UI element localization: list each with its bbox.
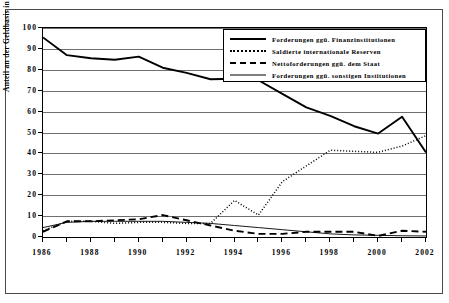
y-axis-tick-label: 70 (27, 85, 37, 94)
thick-solid-line-icon (228, 34, 268, 44)
x-axis-tick-mark (329, 238, 330, 242)
dotted-line-icon (228, 46, 268, 56)
x-axis-tick-label: 1988 (80, 248, 99, 257)
y-axis-tick-label: 60 (27, 106, 37, 115)
y-axis-tick-label: 30 (27, 169, 37, 178)
legend-item-label: Forderungen ggü. Finanzinstitutionen (272, 36, 395, 43)
series-line (43, 136, 426, 231)
x-axis-tick-label: 2002 (415, 248, 434, 257)
x-axis-tick-mark (114, 238, 115, 242)
x-axis-tick-mark (377, 238, 378, 242)
x-axis-tick-label: 1986 (32, 248, 51, 257)
x-axis-tick-mark (353, 238, 354, 242)
dashed-line-icon (228, 58, 268, 68)
x-axis-tick-mark (234, 238, 235, 242)
x-axis-tick-mark (42, 238, 43, 242)
x-axis-tick-mark (281, 238, 282, 242)
thin-solid-line-icon (228, 70, 268, 80)
legend-item: Nettoforderungen ggü. dem Staat (228, 57, 421, 69)
legend-item: Forderungen ggü. sonstigen Institutionen (228, 69, 421, 81)
x-axis-tick-mark (401, 238, 402, 242)
y-axis-tick-label: 100 (22, 23, 37, 32)
legend-item: Forderungen ggü. Finanzinstitutionen (228, 33, 421, 45)
x-axis-tick-mark (186, 238, 187, 242)
legend-item-label: Nettoforderungen ggü. dem Staat (272, 60, 380, 67)
x-axis-tick-mark (138, 238, 139, 242)
chart-legend: Forderungen ggü. FinanzinstitutionenSald… (223, 29, 426, 82)
x-axis-tick-label: 1990 (128, 248, 147, 257)
y-axis-tick-label: 80 (27, 64, 37, 73)
y-axis-tick-label: 50 (27, 127, 37, 136)
y-axis-tick-labels: 1009080706050403020100 (0, 0, 42, 245)
x-axis-tick-mark (305, 238, 306, 242)
x-axis-tick-label: 1996 (272, 248, 291, 257)
y-axis-tick-label: 40 (27, 148, 37, 157)
x-axis-tick-label: 1992 (176, 248, 195, 257)
legend-item: Saldierte internationale Reserven (228, 45, 421, 57)
x-axis-tick-mark (66, 238, 67, 242)
y-axis-tick-label: 20 (27, 190, 37, 199)
x-axis-tick-label: 1994 (224, 248, 243, 257)
chart-screenshot: Anteil an der Geldbasis in v.H. 10090807… (0, 0, 449, 303)
x-axis-tick-mark (257, 238, 258, 242)
y-axis-tick-label: 90 (27, 43, 37, 52)
x-axis-tick-mark (90, 238, 91, 242)
y-axis-tick-label: 10 (27, 211, 37, 220)
legend-item-label: Saldierte internationale Reserven (272, 48, 381, 55)
legend-item-label: Forderungen ggü. sonstigen Institutionen (272, 72, 406, 79)
x-axis-tick-mark (162, 238, 163, 242)
x-axis-tick-labels: 198619881990199219941996199820002002 (0, 238, 449, 268)
x-axis-tick-label: 1998 (320, 248, 339, 257)
x-axis-tick-mark (210, 238, 211, 242)
x-axis-tick-label: 2000 (367, 248, 386, 257)
x-axis-tick-mark (425, 238, 426, 242)
